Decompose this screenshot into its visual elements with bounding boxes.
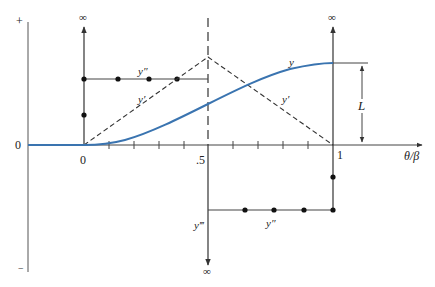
- tick-label-one: 1: [337, 149, 343, 161]
- label-acceleration-upper: y″: [138, 66, 147, 77]
- acceleration-lower-dots: [242, 174, 335, 212]
- infinity-label-mid: ∞: [203, 266, 211, 277]
- label-dimension-L: L: [358, 99, 365, 112]
- tick-label-half: .5: [196, 154, 205, 166]
- infinity-label-start: ∞: [79, 12, 87, 23]
- vertical-axis-zero-label: 0: [15, 139, 21, 151]
- label-displacement: y: [289, 57, 294, 68]
- vertical-axis-minus-label: −: [18, 264, 24, 274]
- infinity-label-end: ∞: [328, 12, 336, 23]
- label-velocity-left: y′: [138, 94, 145, 105]
- x-axis-label: θ/β: [404, 150, 419, 162]
- vertical-axis-plus-label: +: [16, 15, 23, 27]
- tick-label-zero: 0: [80, 154, 86, 166]
- label-acceleration-lower: y″: [266, 218, 275, 229]
- motion-diagram: [0, 0, 435, 287]
- label-jerk: y‴: [194, 220, 204, 231]
- label-velocity-right: y′: [282, 94, 289, 105]
